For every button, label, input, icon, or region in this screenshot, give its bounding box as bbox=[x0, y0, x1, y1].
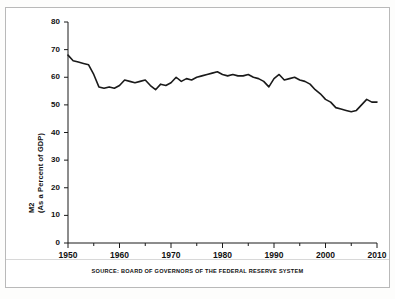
y-tick-label: 0 bbox=[34, 238, 60, 247]
y-tick-label: 40 bbox=[34, 128, 60, 137]
y-tick-label: 60 bbox=[34, 72, 60, 81]
axis-lines bbox=[68, 22, 377, 243]
source-separator bbox=[6, 259, 389, 260]
y-tick-label: 20 bbox=[34, 183, 60, 192]
y-tick-label: 50 bbox=[34, 100, 60, 109]
y-tick-label: 80 bbox=[34, 17, 60, 26]
source-note: SOURCE: BOARD OF GOVERNORS OF THE FEDERA… bbox=[0, 268, 395, 274]
data-series-line bbox=[68, 55, 377, 112]
chart-figure: M2 (As a Percent of GDP) 010203040506070… bbox=[0, 0, 395, 299]
y-tick-label: 70 bbox=[34, 45, 60, 54]
y-tick-label: 30 bbox=[34, 155, 60, 164]
x-tick-marks bbox=[68, 243, 377, 248]
y-tick-label: 10 bbox=[34, 210, 60, 219]
